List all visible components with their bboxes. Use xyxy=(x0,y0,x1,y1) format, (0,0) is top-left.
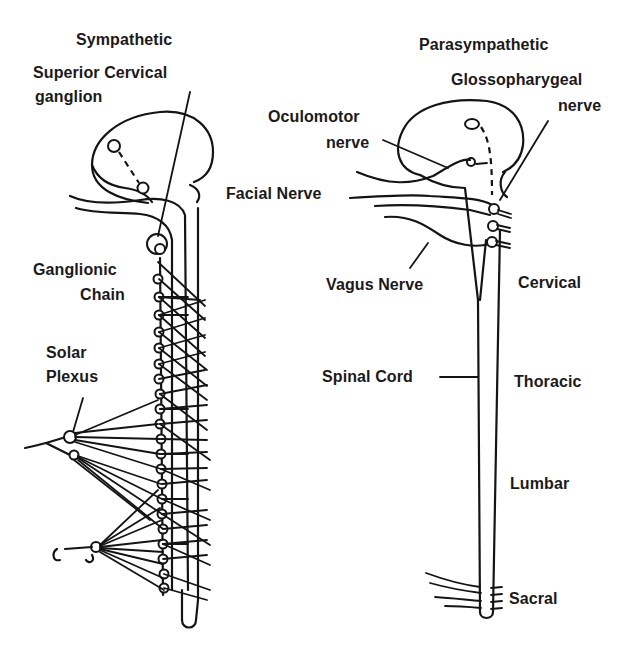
region-cervical-label: Cervical xyxy=(518,273,581,292)
sympathetic-nerve-lattice xyxy=(158,262,210,600)
sacral-nerves xyxy=(426,573,502,609)
spinal-cord-label: Spinal Cord xyxy=(322,367,413,386)
vagus-nerve-label: Vagus Nerve xyxy=(326,275,423,294)
superior-cervical-label-line1: Superior Cervical xyxy=(33,63,167,82)
solar-plexus-leader xyxy=(73,398,83,432)
oculomotor-label-line1: Oculomotor xyxy=(268,107,360,126)
region-lumbar-label: Lumbar xyxy=(510,474,569,493)
nervous-system-diagram: Sympathetic Superior Cervical ganglion G… xyxy=(0,0,630,657)
oculomotor-label-line2: nerve xyxy=(326,133,369,152)
sympathetic-title: Sympathetic xyxy=(76,30,172,49)
parasympathetic-brain-outline xyxy=(398,100,523,175)
ganglionic-chain-label-line2: Chain xyxy=(80,285,125,304)
glossopharyngeal-label-line2: nerve xyxy=(558,96,601,115)
brain-node-lower xyxy=(138,183,149,194)
parasympathetic-figure xyxy=(350,100,548,618)
brain-node-upper xyxy=(108,140,120,152)
ganglionic-chain-label-line1: Ganglionic xyxy=(33,260,117,279)
solar-plexus-label-line1: Solar xyxy=(46,343,87,362)
sympathetic-brain-outline xyxy=(92,112,213,203)
solar-plexus xyxy=(25,398,163,529)
region-sacral-label: Sacral xyxy=(509,589,558,608)
region-thoracic-label: Thoracic xyxy=(514,372,582,391)
parasympathetic-title: Parasympathetic xyxy=(419,35,549,54)
superior-cervical-label-line2: ganglion xyxy=(35,87,102,106)
solar-plexus-label-line2: Plexus xyxy=(46,367,98,386)
glossopharyngeal-label-line1: Glossopharygeal xyxy=(451,70,582,89)
facial-nerve-label: Facial Nerve xyxy=(226,184,321,203)
